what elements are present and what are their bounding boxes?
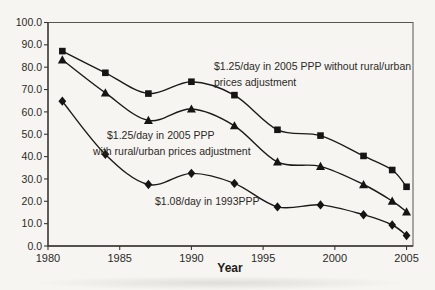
data-point-marker-diamond (360, 210, 368, 219)
data-point-marker-triangle (230, 121, 239, 129)
data-point-marker-triangle (359, 180, 368, 188)
data-point-marker-diamond (274, 202, 282, 211)
data-point-marker-square (102, 69, 109, 76)
axis-ticks-and-labels: 0.010.020.030.040.050.060.070.080.090.01… (16, 16, 419, 264)
data-point-marker-diamond (388, 220, 396, 229)
plot-frame (48, 23, 413, 247)
x-tick-label: 1990 (179, 252, 203, 264)
y-tick-label: 100.0 (16, 16, 42, 28)
y-tick-label: 30.0 (22, 173, 43, 185)
data-point-marker-square (403, 183, 410, 190)
series-annotation-with-adjustment: with rural/urban prices adjustment (92, 145, 251, 157)
plot-area-border (48, 23, 413, 247)
x-tick-label: 1995 (251, 252, 275, 264)
x-tick-label: 2000 (323, 252, 347, 264)
data-point-marker-square (59, 48, 66, 55)
x-tick-label: 1985 (107, 252, 131, 264)
x-tick-label: 2005 (394, 252, 418, 264)
data-point-marker-triangle (101, 88, 110, 96)
poverty-chart-svg: 0.010.020.030.040.050.060.070.080.090.01… (0, 0, 435, 290)
data-point-marker-diamond (231, 179, 239, 188)
data-point-marker-triangle (388, 196, 397, 204)
y-tick-label: 50.0 (22, 128, 43, 140)
y-tick-label: 0.0 (27, 240, 42, 252)
data-point-marker-square (360, 153, 367, 160)
y-tick-label: 10.0 (22, 217, 43, 229)
y-tick-label: 90.0 (22, 38, 43, 50)
y-tick-label: 80.0 (22, 61, 43, 73)
data-point-marker-square (231, 92, 238, 99)
y-tick-label: 20.0 (22, 195, 43, 207)
data-point-marker-diamond (144, 180, 152, 189)
data-point-marker-diamond (317, 200, 325, 209)
x-axis-title: Year (217, 261, 243, 275)
data-point-marker-triangle (58, 55, 67, 63)
data-point-marker-diamond (403, 231, 411, 240)
y-tick-label: 70.0 (22, 83, 43, 95)
series-annotation-with-adjustment: $1.25/day in 2005 PPP (107, 129, 214, 141)
poverty-headcount-chart-figure: 0.010.020.030.040.050.060.070.080.090.01… (0, 0, 435, 290)
axis-lines (48, 23, 413, 247)
data-point-marker-square (274, 126, 281, 133)
series-annotation-without-adjustment: $1.25/day in 2005 PPP without rural/urba… (214, 60, 411, 72)
data-point-marker-square (389, 167, 396, 174)
series-annotation-without-adjustment: prices adjustment (214, 76, 296, 88)
x-tick-label: 1980 (36, 252, 60, 264)
data-point-marker-square (145, 90, 152, 97)
y-tick-label: 60.0 (22, 106, 43, 118)
series-annotation-1993ppp: $1.08/day in 1993PPP (155, 195, 260, 207)
data-point-marker-square (317, 132, 324, 139)
data-point-marker-triangle (273, 157, 282, 165)
y-tick-label: 40.0 (22, 150, 43, 162)
data-point-marker-square (188, 78, 195, 85)
data-point-marker-diamond (188, 169, 196, 178)
